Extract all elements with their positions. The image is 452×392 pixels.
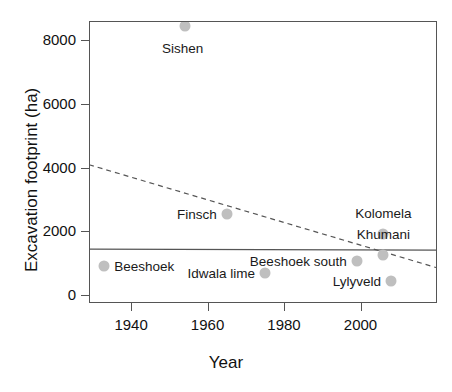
- y-tick-mark: [81, 295, 89, 296]
- y-tick-label: 0: [68, 286, 76, 303]
- y-axis-title: Excavation footprint (ha): [22, 88, 42, 272]
- x-tick-label: 1980: [244, 316, 324, 333]
- x-tick-label: 1940: [91, 316, 171, 333]
- x-tick-label: 1960: [168, 316, 248, 333]
- x-axis-title: Year: [0, 353, 452, 373]
- y-tick-mark: [81, 231, 89, 232]
- y-tick-mark: [81, 104, 89, 105]
- x-tick-mark: [131, 303, 132, 311]
- y-tick-mark: [81, 168, 89, 169]
- chart-figure: Excavation footprint (ha) Year 020004000…: [0, 0, 452, 392]
- plot-frame: [89, 21, 437, 303]
- y-tick-label: 6000: [43, 95, 76, 112]
- y-tick-label: 8000: [43, 31, 76, 48]
- y-tick-label: 2000: [43, 222, 76, 239]
- y-tick-mark: [81, 40, 89, 41]
- x-tick-mark: [284, 303, 285, 311]
- x-tick-mark: [208, 303, 209, 311]
- x-tick-mark: [361, 303, 362, 311]
- y-tick-label: 4000: [43, 159, 76, 176]
- x-tick-label: 2000: [321, 316, 401, 333]
